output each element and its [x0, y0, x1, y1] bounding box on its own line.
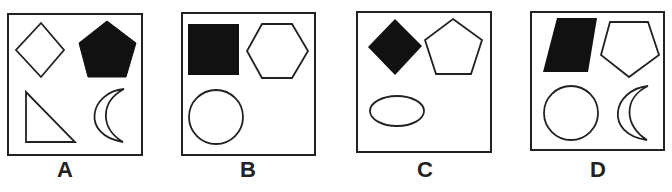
crescent-outline-icon: [618, 86, 648, 140]
parallelogram-filled-icon: [543, 18, 597, 72]
option-c-label: C: [405, 158, 445, 182]
option-d-frame: [531, 12, 664, 150]
option-d-panel[interactable]: [0, 0, 672, 192]
circle-outline-icon: [544, 86, 598, 140]
option-d-figure: [0, 0, 672, 192]
option-a-label: A: [45, 158, 85, 182]
pentagon-inverted-outline-icon: [601, 22, 659, 77]
option-b-label: B: [228, 158, 268, 182]
option-d-label: D: [578, 158, 618, 182]
